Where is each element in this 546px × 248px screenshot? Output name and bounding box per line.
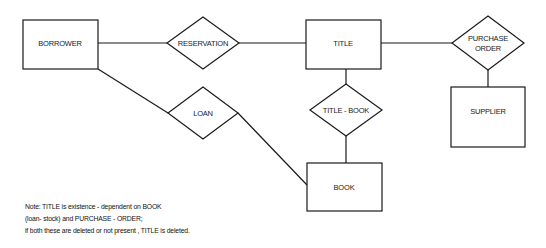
relationship-label-purchase: PURCHASE	[468, 34, 508, 43]
relationship-label-loan: LOAN	[193, 109, 213, 118]
note-line-1: Note: TITLE is existence - dependent on …	[25, 201, 190, 213]
entity-label-supplier: SUPPLIER	[470, 107, 506, 116]
note-line-2: (loan- stock) and PURCHASE - ORDER;	[25, 213, 190, 225]
diagram-note: Note: TITLE is existence - dependent on …	[25, 201, 190, 237]
entity-label-borrower: BORROWER	[38, 39, 82, 48]
entity-supplier	[451, 87, 525, 147]
note-line-3: if both these are deleted or not present…	[25, 225, 190, 237]
entity-label-book: BOOK	[334, 183, 355, 192]
entity-label-title: TITLE	[333, 39, 353, 48]
relationship-label-order: ORDER	[475, 44, 502, 53]
relationship-label-title-book: TITLE - BOOK	[323, 106, 370, 115]
relationship-label-reservation: RESERVATION	[178, 39, 228, 48]
edge-borrower-loan	[98, 69, 168, 113]
edge-loan-book	[238, 113, 307, 185]
